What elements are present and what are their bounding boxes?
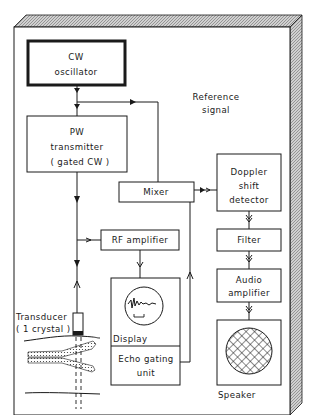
echo-gating-label-1: Echo gating <box>118 354 173 364</box>
filter-block: Filter <box>217 229 281 251</box>
reference-signal-label-1: Reference <box>193 92 240 102</box>
cabinet-side-bevel <box>290 15 302 415</box>
transducer-label-2: ( 1 crystal ) <box>16 324 70 334</box>
echo-gating-label-2: unit <box>137 368 155 378</box>
audio-amplifier-label-1: Audio <box>236 275 262 285</box>
mixer-block: Mixer <box>119 182 194 202</box>
rf-amplifier-block: RF amplifier <box>101 230 179 250</box>
pw-transmitter-label-2: transmitter <box>51 142 104 152</box>
pw-transmitter-label-1: PW <box>70 127 85 137</box>
display-label: Display <box>113 334 147 344</box>
display-block: Display Echo gating unit <box>111 278 180 385</box>
pw-transmitter-block: PW transmitter ( gated CW ) <box>27 116 127 172</box>
cw-oscillator-label-1: CW <box>68 52 83 62</box>
audio-amplifier-label-2: amplifier <box>228 288 270 298</box>
speaker-grille-icon <box>226 328 272 374</box>
rf-amplifier-label: RF amplifier <box>112 235 169 245</box>
transducer-label-1: Transducer <box>15 312 67 322</box>
cw-oscillator-label-2: oscillator <box>54 67 97 77</box>
reference-signal-label-2: signal <box>202 105 230 115</box>
diagram-canvas: CW oscillator PW transmitter ( gated CW … <box>0 0 314 415</box>
cw-oscillator-block: CW oscillator <box>28 41 125 85</box>
pw-transmitter-label-3: ( gated CW ) <box>50 157 109 167</box>
oscilloscope-screen-icon <box>125 287 163 325</box>
cabinet-top-bevel <box>14 15 302 27</box>
speaker-label: Speaker <box>218 390 256 400</box>
doppler-label-1: Doppler <box>231 167 268 177</box>
doppler-detector-block: Doppler shift detector <box>217 154 281 211</box>
crystal-element <box>73 331 83 335</box>
doppler-label-3: detector <box>229 195 269 205</box>
audio-amplifier-block: Audio amplifier <box>217 269 281 302</box>
mixer-label: Mixer <box>143 187 169 197</box>
filter-label: Filter <box>237 235 261 245</box>
doppler-label-2: shift <box>239 181 260 191</box>
